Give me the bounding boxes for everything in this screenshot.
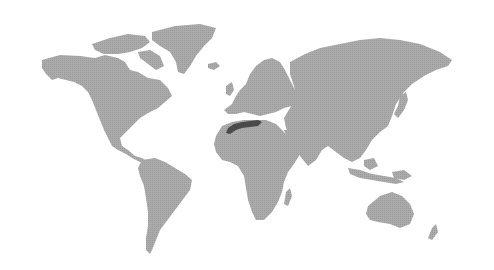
- australia: [366, 192, 414, 228]
- north-america: [42, 55, 172, 162]
- europe: [224, 58, 298, 116]
- united-kingdom: [226, 82, 234, 96]
- madagascar: [284, 188, 292, 206]
- new-zealand: [428, 224, 438, 240]
- south-america: [138, 158, 192, 254]
- world-map-svg: [0, 0, 494, 270]
- iceland: [208, 62, 220, 70]
- borneo: [364, 158, 378, 170]
- arctic-islands: [92, 34, 150, 54]
- world-map: Maghreb (Morocco / northern Algeria): [0, 0, 494, 270]
- baffin-island: [138, 50, 164, 70]
